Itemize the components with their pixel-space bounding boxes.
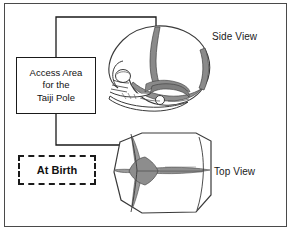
callout-line-1: Access Area: [30, 67, 83, 80]
figure-canvas: Access Area for the Taiji Pole At Birth …: [0, 0, 292, 232]
label-top-view: Top View: [214, 166, 255, 177]
callout-box-access-area: Access Area for the Taiji Pole: [16, 57, 96, 114]
callout-line-3: Taiji Pole: [37, 92, 75, 105]
infant-skull-side-view: [109, 26, 210, 111]
at-birth-box: At Birth: [18, 155, 96, 185]
callout-line-2: for the: [43, 79, 70, 92]
label-side-view: Side View: [212, 31, 257, 42]
infant-skull-top-view: [113, 133, 211, 213]
at-birth-label: At Birth: [37, 164, 77, 176]
